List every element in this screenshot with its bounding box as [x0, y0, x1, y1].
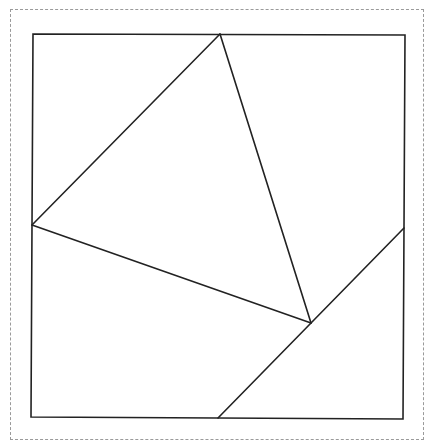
outer-square — [31, 34, 405, 419]
triangle-edge-bottom — [32, 225, 311, 323]
cut-line-lower-right — [218, 228, 404, 418]
triangle-edge-left — [32, 34, 220, 225]
triangle-edge-right — [220, 34, 311, 323]
geometry-diagram — [0, 0, 430, 441]
